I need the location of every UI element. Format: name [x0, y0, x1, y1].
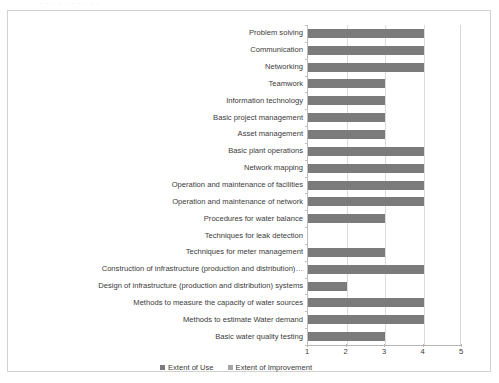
- category-tick: [305, 109, 308, 110]
- legend-item[interactable]: Extent of Use: [160, 363, 214, 372]
- bar-extent-of-use: [308, 214, 385, 223]
- category-label: Problem solving: [16, 28, 306, 37]
- category-label: Networking: [16, 62, 306, 71]
- category-label: Construction of infrastructure (producti…: [16, 264, 306, 273]
- bar-extent-of-use: [308, 248, 385, 257]
- legend-label: Extent of Improvement: [236, 363, 312, 372]
- category-tick: [305, 25, 308, 26]
- bar-extent-of-use: [308, 63, 424, 72]
- bar-extent-of-use: [308, 164, 424, 173]
- bar-extent-of-use: [308, 265, 424, 274]
- scan-artifact-text: · · · · · · · · · ·: [40, 0, 340, 7]
- category-tick: [305, 278, 308, 279]
- bar-extent-of-use: [308, 315, 424, 324]
- bar-extent-of-use: [308, 197, 424, 206]
- category-tick: [305, 143, 308, 144]
- category-label: Design of infrastructure (production and…: [16, 281, 306, 290]
- category-tick: [305, 92, 308, 93]
- category-label: Methods to measure the capacity of water…: [16, 298, 306, 307]
- category-tick: [305, 177, 308, 178]
- category-label: Techniques for meter management: [16, 247, 306, 256]
- bar-extent-of-use: [308, 147, 424, 156]
- category-label: Procedures for water balance: [16, 214, 306, 223]
- chart-plot-wrapper: Problem solvingCommunicationNetworkingTe…: [8, 11, 490, 371]
- category-tick: [305, 294, 308, 295]
- category-axis: Problem solvingCommunicationNetworkingTe…: [16, 25, 306, 345]
- category-tick: [305, 59, 308, 60]
- x-axis-tick-label: 1: [305, 347, 309, 356]
- bar-extent-of-use: [308, 282, 347, 291]
- square-marker-icon: [160, 365, 165, 370]
- category-tick: [305, 126, 308, 127]
- bar-extent-of-use: [308, 181, 424, 190]
- category-label: Basic plant operations: [16, 146, 306, 155]
- legend-label: Extent of Use: [168, 363, 214, 372]
- x-axis-tick-label: 3: [382, 347, 386, 356]
- x-axis-tick-labels: 12345: [307, 347, 461, 359]
- category-tick: [305, 244, 308, 245]
- category-tick: [305, 328, 308, 329]
- chart-frame: Problem solvingCommunicationNetworkingTe…: [7, 10, 491, 372]
- category-tick: [305, 76, 308, 77]
- category-tick: [305, 227, 308, 228]
- category-label: Operation and maintenance of network: [16, 197, 306, 206]
- category-label: Basic water quality testing: [16, 332, 306, 341]
- bar-extent-of-use: [308, 332, 385, 341]
- category-label: Techniques for leak detection: [16, 231, 306, 240]
- legend-item[interactable]: Extent of Improvement: [228, 363, 312, 372]
- category-label: Teamwork: [16, 79, 306, 88]
- category-tick: [305, 193, 308, 194]
- bar-extent-of-use: [308, 46, 424, 55]
- category-tick: [305, 311, 308, 312]
- bar-extent-of-use: [308, 113, 385, 122]
- category-label: Operation and maintenance of facilities: [16, 180, 306, 189]
- bar-extent-of-use: [308, 130, 385, 139]
- category-label: Information technology: [16, 96, 306, 105]
- square-marker-icon: [228, 365, 233, 370]
- category-label: Network mapping: [16, 163, 306, 172]
- bar-extent-of-use: [308, 29, 424, 38]
- category-label: Asset management: [16, 129, 306, 138]
- x-axis-tick-label: 5: [459, 347, 463, 356]
- bar-extent-of-use: [308, 298, 424, 307]
- category-tick: [305, 261, 308, 262]
- x-axis-tick-label: 2: [343, 347, 347, 356]
- x-axis-tick-label: 4: [420, 347, 424, 356]
- category-tick: [305, 42, 308, 43]
- category-label: Methods to estimate Water demand: [16, 315, 306, 324]
- category-label: Communication: [16, 45, 306, 54]
- category-tick: [305, 160, 308, 161]
- gridline: [424, 25, 425, 345]
- category-label: Basic project management: [16, 113, 306, 122]
- bar-extent-of-use: [308, 79, 385, 88]
- bar-extent-of-use: [308, 96, 385, 105]
- plot-area: [307, 25, 461, 345]
- category-tick: [305, 210, 308, 211]
- chart-legend: Extent of UseExtent of Improvement: [160, 361, 312, 373]
